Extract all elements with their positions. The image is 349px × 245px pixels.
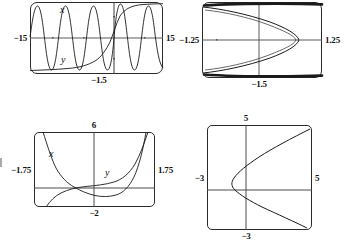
axis-label-left: −1.25 [179, 36, 202, 45]
axis-label-left: −3 [195, 173, 207, 182]
curve-label-x: x [49, 149, 53, 159]
x-axis-tick [52, 37, 54, 39]
page-margin-mark [0, 158, 2, 167]
x-axis-tick [144, 37, 146, 39]
plot-curves-top-left [30, 2, 163, 74]
axis-label-bottom: −2 [89, 207, 98, 218]
axis-label-right: 1.75 [155, 165, 173, 174]
axis-label-right: 15 [163, 34, 175, 43]
axis-label-bottom: −3 [241, 230, 250, 241]
axis-label-right: 1.25 [322, 36, 340, 45]
axis-label-top: 5 [244, 114, 248, 125]
curve-label-y: y [105, 168, 109, 178]
axis-label-right: 5 [312, 173, 319, 182]
figure-sheet: −15 15 −1.5 x y −1.25 1.25 −1.5 [0, 0, 349, 245]
plot-panel-bottom-right: −3 5 5 −3 [207, 125, 312, 230]
axis-label-left: −15 [13, 34, 30, 43]
y-axis-tick [113, 58, 115, 60]
y-axis-tick [113, 16, 115, 18]
axis-label-bottom: −1.5 [251, 78, 267, 89]
axis-label-left: −1.75 [11, 165, 34, 174]
axis-label-top: 6 [92, 121, 96, 132]
bottom-band [204, 75, 322, 77]
plot-curves-bottom-left [34, 132, 155, 207]
curve-label-x: x [60, 5, 64, 15]
axis-label-bottom: −1.5 [91, 74, 107, 85]
sideways-parabola [232, 129, 310, 228]
x-axis-tick [83, 37, 85, 39]
plot-curves-bottom-right [207, 125, 312, 230]
x-axis-tick [216, 39, 218, 41]
curve-label-y: y [61, 55, 65, 65]
top-band [204, 4, 322, 6]
plot-panel-bottom-left: −1.75 1.75 6 −2 x y [34, 132, 155, 207]
plot-panel-top-left: −15 15 −1.5 x y [30, 2, 163, 74]
plot-curves-top-right [202, 2, 322, 78]
plot-panel-top-right: −1.25 1.25 −1.5 [202, 2, 322, 78]
